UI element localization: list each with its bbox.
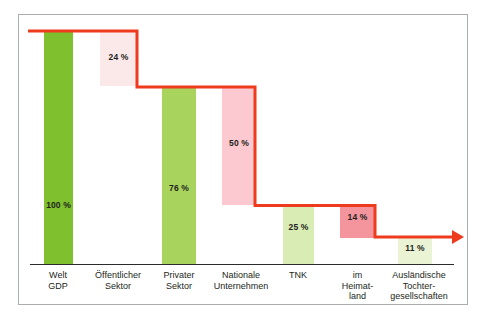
bar-welt-gdp: 100 % (44, 30, 73, 264)
category-label-auslaendische: Ausländische Tochter- gesellschaften (378, 270, 460, 302)
bar-value-label: 11 % (398, 243, 432, 253)
category-label-tnk: TNK (273, 270, 323, 281)
bar-privater-sektor: 76 % (162, 86, 196, 264)
baseline-axis (30, 264, 454, 265)
step-arrow-head (452, 230, 464, 244)
bar-value-label: 50 % (222, 138, 256, 148)
bar-value-label: 24 % (100, 52, 137, 62)
bar-nationale-unternehmen: 50 % (222, 86, 256, 205)
bar-auslaendische-tochtergesellschaften: 11 % (398, 238, 432, 264)
bar-im-heimatland: 14 % (340, 205, 375, 238)
bar-oeffentlicher-sektor: 24 % (100, 30, 137, 86)
category-label-nationale-unternehmen: Nationale Unternehmen (206, 270, 276, 291)
bar-tnk: 25 % (283, 205, 314, 264)
bar-value-label: 14 % (340, 212, 375, 222)
category-label-im-heimatland: im Heimat- land (330, 270, 385, 302)
chart-canvas: 100 %24 %76 %50 %25 %14 %11 % Welt GDPÖf… (0, 0, 482, 319)
category-label-welt-gdp: Welt GDP (28, 270, 88, 291)
bar-value-label: 25 % (283, 222, 314, 232)
chart-plot-area: 100 %24 %76 %50 %25 %14 %11 % Welt GDPÖf… (0, 0, 482, 319)
bar-value-label: 76 % (162, 183, 196, 193)
bar-value-label: 100 % (44, 200, 73, 210)
category-label-oeffentlicher-sektor: Öffentlicher Sektor (87, 270, 149, 291)
category-label-privater-sektor: Privater Sektor (149, 270, 209, 291)
